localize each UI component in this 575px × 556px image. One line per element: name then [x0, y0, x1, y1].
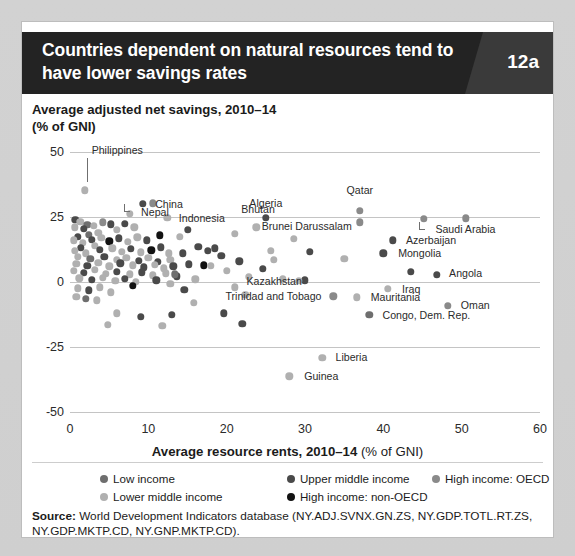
legend-item[interactable]: Upper middle income — [287, 472, 410, 485]
scatter-point — [99, 274, 106, 281]
y-axis-tick-label: 50 — [50, 145, 64, 159]
point-label: Nepal — [141, 206, 169, 218]
source-note: Source: World Development Indicators dat… — [32, 509, 547, 539]
chart-plot-area: 50250-25-50PhilippinesChinaNepalIndonesi… — [22, 142, 553, 442]
scatter-point — [131, 224, 138, 231]
chart-subtitle: Average adjusted net savings, 2010–14 (%… — [32, 102, 452, 135]
scatter-point — [70, 237, 77, 244]
page-background: Countries dependent on natural resources… — [0, 0, 575, 556]
scatter-point — [235, 257, 242, 264]
scatter-point — [113, 226, 120, 233]
legend-swatch-icon — [100, 475, 108, 483]
point-label: Indonesia — [179, 212, 225, 224]
scatter-point — [85, 287, 92, 294]
y-axis-tick-label: 0 — [57, 275, 64, 289]
figure-title: Countries dependent on natural resources… — [42, 39, 472, 85]
scatter-point — [157, 243, 164, 250]
scatter-point — [162, 269, 169, 276]
scatter-point — [389, 237, 396, 244]
scatter-point — [176, 233, 183, 240]
legend-label: Low income — [113, 472, 175, 485]
leader-line — [419, 222, 420, 229]
scatter-point — [167, 280, 174, 287]
y-axis-tick-label: -25 — [46, 340, 64, 354]
chart-legend: Low incomeLower middle incomeUpper middl… — [22, 470, 553, 512]
x-axis-tick-label: 10 — [141, 422, 155, 436]
scatter-point — [259, 265, 266, 272]
scatter-point — [82, 295, 89, 302]
point-label: Mongolia — [398, 247, 441, 259]
scatter-point — [207, 262, 214, 269]
scatter-point — [306, 248, 313, 255]
point-label: Kazakhstan — [247, 275, 302, 287]
scatter-point — [129, 262, 136, 269]
point-label: Trinidad and Tobago — [225, 290, 321, 302]
scatter-point — [211, 244, 218, 251]
scatter-point — [179, 250, 186, 257]
legend-divider — [32, 462, 543, 463]
point-label: Guinea — [304, 370, 338, 382]
legend-label: Upper middle income — [300, 472, 410, 485]
scatter-point — [145, 254, 152, 261]
scatter-point — [407, 268, 414, 275]
y-axis-tick-label: 25 — [50, 210, 64, 224]
scatter-point — [286, 372, 293, 379]
scatter-point — [109, 244, 116, 251]
scatter-point — [91, 266, 98, 273]
scatter-point — [121, 220, 128, 227]
scatter-point — [366, 311, 373, 318]
point-label: Qatar — [347, 184, 374, 196]
scatter-point — [129, 282, 136, 289]
x-axis-tick-label: 20 — [220, 422, 234, 436]
leader-line — [124, 211, 130, 212]
scatter-point — [185, 261, 192, 268]
scatter-point — [170, 263, 177, 270]
scatter-point — [152, 277, 159, 284]
legend-label: High income: OECD — [445, 472, 549, 485]
x-axis-tick-label: 40 — [376, 422, 390, 436]
scatter-point — [184, 226, 191, 233]
source-text: World Development Indicators database (N… — [32, 509, 532, 538]
scatter-point — [267, 247, 274, 254]
scatter-point — [98, 234, 105, 241]
leader-line — [87, 158, 88, 182]
scatter-point — [340, 255, 347, 262]
scatter-point — [138, 268, 145, 275]
legend-item[interactable]: Low income — [100, 472, 175, 485]
scatter-point — [253, 224, 260, 231]
x-axis-title-main: Average resource rents, 2010–14 — [152, 444, 358, 459]
scatter-point — [115, 235, 122, 242]
scatter-point — [112, 277, 119, 284]
legend-item[interactable]: High income: non-OECD — [287, 490, 428, 503]
scatter-point — [134, 234, 141, 241]
scatter-point — [76, 275, 83, 282]
point-label: Philippines — [92, 144, 143, 156]
point-label: Brunei Darussalam — [262, 220, 352, 232]
scatter-point — [290, 235, 297, 242]
legend-item[interactable]: Lower middle income — [100, 490, 223, 503]
scatter-point — [71, 224, 78, 231]
x-axis-title-unit: (% of GNI) — [357, 444, 423, 459]
chart-subtitle-line2: (% of GNI) — [32, 119, 452, 136]
legend-swatch-icon — [100, 493, 108, 501]
scatter-point — [223, 267, 230, 274]
x-axis-title: Average resource rents, 2010–14 (% of GN… — [22, 444, 553, 459]
scatter-point — [87, 255, 94, 262]
scatter-point — [127, 245, 134, 252]
x-axis-tick-label: 50 — [455, 422, 469, 436]
point-label: Algeria — [249, 197, 282, 209]
scatter-point — [380, 250, 387, 257]
y-axis-tick-label: -50 — [46, 405, 64, 419]
scatter-point — [319, 354, 326, 361]
scatter-point — [190, 299, 197, 306]
scatter-point — [420, 215, 427, 222]
legend-item[interactable]: High income: OECD — [432, 472, 549, 485]
chart-subtitle-line1: Average adjusted net savings, 2010–14 — [32, 102, 452, 119]
scatter-point — [181, 286, 188, 293]
scatter-point — [70, 267, 77, 274]
legend-swatch-icon — [287, 475, 295, 483]
point-label: Congo, Dem. Rep. — [383, 309, 471, 321]
x-axis-tick-label: 30 — [298, 422, 312, 436]
scatter-point — [143, 237, 150, 244]
scatter-point — [107, 289, 114, 296]
